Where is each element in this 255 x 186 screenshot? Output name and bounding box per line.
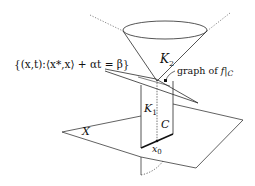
x0-label: x0: [152, 143, 162, 156]
cone-axis-dashed: [90, 13, 230, 31]
k2-label: K2: [159, 52, 174, 68]
graph-leader-line: [166, 71, 175, 80]
hyperplane-set-label: {(x,t):⟨x*,x⟩ + αt = β}: [14, 58, 130, 71]
below-plane-lines: [141, 157, 163, 175]
c-label: C: [161, 118, 170, 131]
convex-separation-diagram: {(x,t):⟨x*,x⟩ + αt = β} K2 graph of f|C …: [0, 0, 255, 186]
k1-label: K1: [143, 102, 157, 117]
graph-label: graph of f|C: [177, 65, 234, 78]
plane-x-label: X: [81, 125, 91, 138]
point-x0: [156, 140, 159, 143]
